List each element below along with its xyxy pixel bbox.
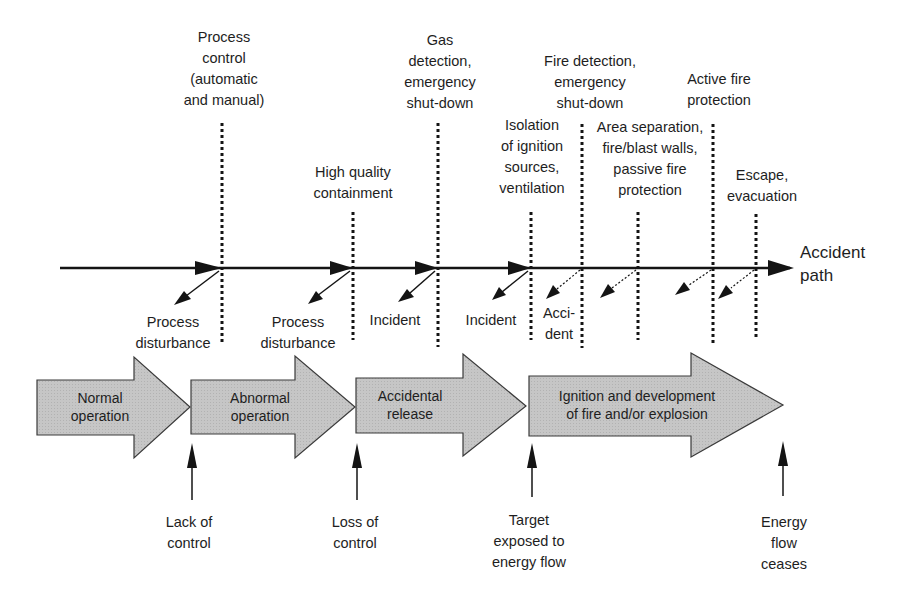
stage-label-normal-operation: Normal operation [71,389,129,425]
stage-label-ignition: Ignition and development of fire and/or … [559,387,715,423]
deviation-label-accident: Acci- dent [543,303,575,345]
barrier-label-area-separation: Area separation, fire/blast walls, passi… [597,117,703,201]
accident-path-label: Accident path [800,241,865,287]
deviation-arrows-solid [174,271,528,305]
deviation-label-incident-1: Incident [370,310,421,331]
stage-label-accidental-release: Accidental release [378,387,443,423]
barrier-label-active-fire-protection: Active fire protection [687,69,751,111]
deviation-arrows-dotted [546,270,754,299]
deviation-label-process-disturbance-1: Process disturbance [136,312,211,354]
event-label-loss-of-control: Loss of control [332,512,379,554]
barrier-label-gas-detection: Gas detection, emergency shut-down [404,30,476,114]
event-label-energy-flow-ceases: Energy flow ceases [761,512,807,575]
deviation-label-process-disturbance-2: Process disturbance [261,312,336,354]
barrier-label-escape: Escape, evacuation [727,165,797,207]
stage-label-abnormal-operation: Abnormal operation [230,389,290,425]
barrier-label-process-control: Process control (automatic and manual) [184,27,265,111]
event-label-lack-of-control: Lack of control [166,512,213,554]
event-label-target-exposed: Target exposed to energy flow [492,510,566,573]
deviation-label-incident-2: Incident [466,310,517,331]
barrier-label-fire-detection: Fire detection, emergency shut-down [544,51,636,114]
barrier-label-isolation-ignition: Isolation of ignition sources, ventilati… [499,115,564,199]
accident-sequence-diagram: Process control (automatic and manual) H… [0,0,905,604]
accident-path-arrow [60,260,794,276]
barrier-label-high-quality-containment: High quality containment [314,162,393,204]
